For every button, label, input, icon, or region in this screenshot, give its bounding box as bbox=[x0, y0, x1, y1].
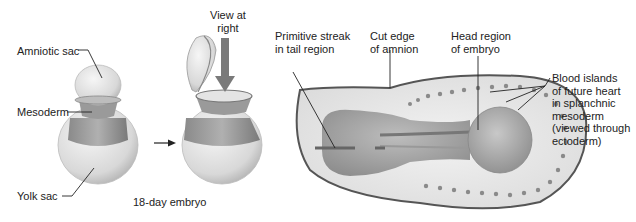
label-head-region: Head region of embryo bbox=[451, 30, 511, 55]
label-yolk-sac: Yolk sac bbox=[17, 190, 58, 203]
caption-18-day-embryo: 18-day embryo bbox=[133, 196, 206, 209]
label-primitive-streak: Primitive streak in tail region bbox=[275, 30, 350, 55]
label-cut-edge-of-amnion: Cut edge of amnion bbox=[370, 30, 418, 55]
mesoderm-band bbox=[68, 118, 128, 146]
label-view-at-right: View at right bbox=[210, 9, 246, 34]
view-arrow-icon bbox=[215, 38, 235, 92]
label-mesoderm: Mesoderm bbox=[17, 106, 69, 119]
label-blood-islands: Blood islands of future heart in splanch… bbox=[552, 72, 630, 147]
embryo-closed bbox=[58, 65, 138, 184]
label-amniotic-sac: Amniotic sac bbox=[17, 45, 79, 58]
arrow-icon bbox=[154, 140, 176, 147]
